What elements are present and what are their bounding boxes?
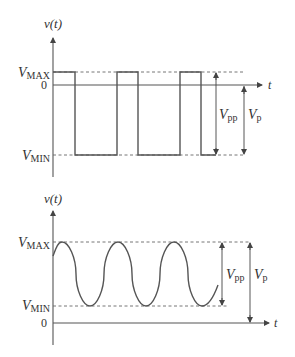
x-axis-label: t bbox=[274, 316, 278, 330]
waveform-diagram: v(t) t VMAX 0 VMIN Vpp Vp v(t) t VMAX VM… bbox=[0, 0, 295, 357]
square-wave-panel: v(t) t VMAX 0 VMIN Vpp Vp bbox=[18, 16, 272, 177]
vpp-label: Vpp bbox=[219, 107, 238, 123]
y-axis-label: v(t) bbox=[44, 191, 62, 206]
vp-label: Vp bbox=[248, 107, 262, 123]
vp-label: Vp bbox=[254, 267, 268, 283]
vmax-label: VMAX bbox=[18, 235, 51, 251]
zero-label: 0 bbox=[41, 316, 47, 330]
vmin-label: VMIN bbox=[22, 148, 50, 164]
y-axis-label: v(t) bbox=[44, 16, 62, 31]
vmin-label: VMIN bbox=[22, 298, 50, 314]
sine-waveform bbox=[53, 242, 218, 306]
sine-wave-panel: v(t) t VMAX VMIN 0 Vpp Vp bbox=[18, 191, 278, 345]
vpp-label: Vpp bbox=[226, 267, 245, 283]
zero-label: 0 bbox=[41, 78, 47, 92]
x-axis-label: t bbox=[268, 78, 272, 92]
